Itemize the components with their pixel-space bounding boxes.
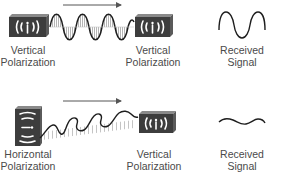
horizontal-wave xyxy=(40,111,138,140)
label-line: Vertical xyxy=(126,148,182,160)
label-line: Received xyxy=(215,148,269,160)
horizontal-antenna-icon xyxy=(15,106,42,146)
receiver-label-row2: Vertical Polarization xyxy=(126,148,182,172)
label-line: Signal xyxy=(215,56,269,68)
polarization-diagram xyxy=(0,0,288,172)
transmitter-label-row2: Horizontal Polarization xyxy=(0,148,56,172)
receiver-label-row1: Vertical Polarization xyxy=(125,44,181,68)
vertical-antenna-icon xyxy=(135,14,173,37)
label-line: Polarization xyxy=(0,160,56,172)
strong-signal-icon xyxy=(219,12,265,38)
result-label-row2: Received Signal xyxy=(215,148,269,172)
label-line: Horizontal xyxy=(0,148,56,160)
vertical-antenna-icon xyxy=(9,14,49,37)
result-label-row1: Received Signal xyxy=(215,44,269,68)
weak-signal-icon xyxy=(219,119,265,125)
label-line: Signal xyxy=(215,160,269,172)
label-line: Polarization xyxy=(125,56,181,68)
transmitter-label-row1: Vertical Polarization xyxy=(0,44,56,68)
label-line: Vertical xyxy=(0,44,56,56)
label-line: Received xyxy=(215,44,269,56)
vertical-antenna-icon xyxy=(139,111,176,133)
label-line: Polarization xyxy=(126,160,182,172)
vertical-wave xyxy=(50,14,134,40)
label-line: Polarization xyxy=(0,56,56,68)
label-line: Vertical xyxy=(125,44,181,56)
